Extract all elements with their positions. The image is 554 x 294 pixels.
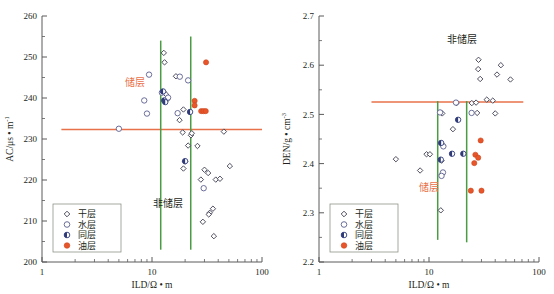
annotation-non-reservoir: 非储层: [447, 33, 477, 45]
legend: 干层水层同层油层: [53, 204, 121, 252]
data-point-filled-circle: [478, 138, 483, 143]
data-point-diamond: [161, 50, 166, 55]
data-point-circle: [116, 126, 121, 131]
data-point-filled-circle: [203, 60, 208, 65]
legend-label: 同层: [355, 230, 373, 240]
data-point-diamond: [494, 72, 499, 77]
data-point-filled-circle: [472, 161, 477, 166]
y-tick-label: 240: [24, 93, 38, 103]
data-point-diamond: [198, 177, 203, 182]
x-tick-label: 100: [255, 267, 269, 277]
data-point-diamond: [473, 100, 478, 105]
y-tick-label: 2.6: [303, 60, 315, 70]
x-tick-label: 1: [40, 267, 45, 277]
data-point-circle: [144, 111, 149, 116]
axes-group: 2.22.32.42.52.62.7110100ILD/Ω • mDEN/g •…: [280, 11, 546, 290]
data-point-filled-circle: [479, 188, 484, 193]
data-point-circle: [142, 98, 147, 103]
annotations-group: 储层非储层: [125, 76, 183, 209]
data-point-diamond: [195, 143, 200, 148]
legend-label: 干层: [78, 209, 96, 219]
data-point-diamond: [181, 107, 186, 112]
data-point-diamond: [210, 206, 215, 211]
annotation-reservoir: 储层: [125, 76, 145, 88]
data-point-diamond: [181, 166, 186, 171]
legend-label: 油层: [355, 240, 373, 251]
y-tick-label: 220: [24, 175, 38, 185]
axes-group: 200210220230240250260110100ILD/Ω • mAC/μ…: [3, 11, 269, 290]
data-point-diamond: [475, 66, 480, 71]
legend-marker-filled-circle: [341, 243, 347, 249]
scatter-plot-ac: 200210220230240250260110100ILD/Ω • mAC/μ…: [0, 0, 277, 294]
figure-root: 200210220230240250260110100ILD/Ω • mAC/μ…: [0, 0, 554, 294]
data-point-circle: [469, 110, 474, 115]
annotation-reservoir: 储层: [419, 181, 439, 193]
annotation-non-reservoir: 非储层: [153, 197, 183, 209]
data-point-circle: [146, 72, 151, 77]
y-axis-title: DEN/g • cm-3: [280, 113, 292, 165]
legend-label: 同层: [78, 230, 96, 240]
x-tick-label: 10: [148, 267, 158, 277]
data-point-filled-circle: [203, 109, 208, 114]
legend-label: 干层: [355, 209, 373, 219]
legend-label: 油层: [78, 240, 96, 251]
legend-label: 水层: [355, 219, 373, 230]
y-tick-label: 2.4: [303, 159, 315, 169]
legend-marker-circle: [341, 222, 347, 228]
legend-marker-circle: [64, 222, 70, 228]
data-point-diamond: [476, 57, 481, 62]
data-point-circle: [177, 74, 182, 79]
scatter-plot-den: 2.22.32.42.52.62.7110100ILD/Ω • mDEN/g •…: [277, 0, 554, 294]
legend: 干层水层同层油层: [330, 204, 398, 252]
data-point-filled-circle: [468, 188, 473, 193]
data-point-diamond: [200, 219, 205, 224]
data-point-circle: [439, 173, 444, 178]
data-point-diamond: [211, 233, 216, 238]
y-tick-label: 210: [24, 216, 38, 226]
data-point-diamond: [498, 63, 503, 68]
y-tick-label: 230: [24, 134, 38, 144]
legend-marker-filled-circle: [64, 243, 70, 249]
y-tick-label: 250: [24, 52, 38, 62]
series-half-circle: [160, 89, 192, 164]
x-axis-title: ILD/Ω • m: [409, 280, 451, 290]
data-point-diamond: [450, 126, 455, 131]
data-point-diamond: [427, 152, 432, 157]
data-point-diamond: [217, 176, 222, 181]
series-diamond: [161, 50, 232, 239]
series-filled-circle: [468, 138, 484, 193]
data-point-diamond: [474, 110, 479, 115]
data-point-circle: [453, 100, 458, 105]
data-point-diamond: [493, 111, 498, 116]
data-point-diamond: [227, 163, 232, 168]
data-point-circle: [175, 110, 180, 115]
data-point-filled-circle: [476, 155, 481, 160]
chart-panel-ac: 200210220230240250260110100ILD/Ω • mAC/μ…: [0, 0, 277, 294]
data-point-circle: [185, 78, 190, 83]
data-point-diamond: [438, 208, 443, 213]
x-axis-title: ILD/Ω • m: [132, 280, 174, 290]
data-point-filled-circle: [192, 103, 197, 108]
x-tick-label: 10: [425, 267, 435, 277]
data-point-diamond: [393, 156, 398, 161]
series-circle: [437, 100, 474, 179]
data-point-diamond: [508, 77, 513, 82]
x-tick-label: 1: [317, 267, 322, 277]
y-tick-label: 2.3: [303, 208, 315, 218]
annotations-group: 非储层储层: [419, 33, 477, 193]
data-point-diamond: [162, 60, 167, 65]
data-point-circle: [437, 110, 442, 115]
y-tick-label: 2.5: [303, 110, 315, 120]
data-point-circle: [201, 186, 206, 191]
y-tick-label: 2.2: [303, 257, 314, 267]
y-tick-label: 2.7: [303, 11, 315, 21]
data-point-diamond: [180, 130, 185, 135]
x-tick-label: 100: [532, 267, 546, 277]
legend-label: 水层: [78, 219, 96, 230]
data-point-diamond: [417, 168, 422, 173]
series-filled-circle: [192, 60, 209, 114]
data-point-diamond: [177, 117, 182, 122]
chart-panel-den: 2.22.32.42.52.62.7110100ILD/Ω • mDEN/g •…: [277, 0, 554, 294]
y-tick-label: 200: [24, 257, 38, 267]
series-half-circle: [438, 117, 466, 162]
